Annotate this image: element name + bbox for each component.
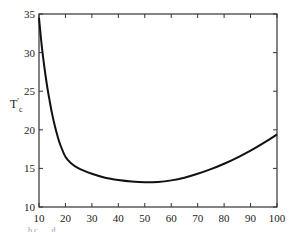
- x-tick-label: 20: [60, 212, 72, 224]
- x-tick-label: 50: [139, 212, 151, 224]
- figure-caption: ... b c . ... d ... ...: [20, 226, 72, 232]
- x-tick-label: 10: [34, 212, 46, 224]
- y-tick-label: 25: [24, 85, 36, 97]
- y-axis-label-subscript: c: [19, 105, 23, 114]
- x-tick-label: 40: [113, 212, 125, 224]
- y-tick-label: 20: [24, 124, 36, 136]
- y-tick-label: 30: [24, 47, 36, 59]
- x-tick-label: 100: [269, 212, 286, 224]
- y-tick-label: 10: [24, 201, 36, 213]
- x-tick-label: 70: [192, 212, 204, 224]
- y-axis-tick-labels: 101520253035: [24, 8, 36, 213]
- plot-frame: [39, 14, 277, 207]
- data-line-series: [39, 18, 277, 182]
- x-axis-tick-labels: 102030405060708090100: [34, 212, 286, 224]
- y-tick-label: 35: [24, 8, 36, 20]
- y-axis-label: T'c: [10, 96, 23, 114]
- y-tick-label: 15: [24, 162, 36, 174]
- line-chart: 102030405060708090100 101520253035 T'c: [0, 0, 289, 232]
- x-tick-label: 30: [86, 212, 98, 224]
- plot-border: [39, 14, 277, 207]
- x-tick-label: 60: [166, 212, 178, 224]
- x-tick-label: 90: [245, 212, 257, 224]
- x-tick-label: 80: [219, 212, 231, 224]
- axis-ticks: [39, 14, 277, 207]
